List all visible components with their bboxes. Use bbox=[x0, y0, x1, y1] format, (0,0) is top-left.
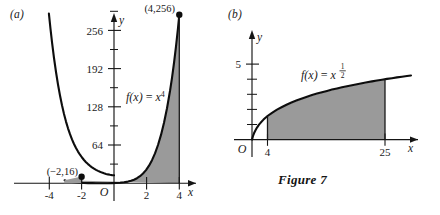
point-marker-4-256 bbox=[176, 12, 182, 18]
function-label-b-exponent: 1 2 bbox=[340, 62, 346, 80]
x-tick-label-4: 4 bbox=[177, 189, 183, 201]
y-tick-label-256: 256 bbox=[87, 25, 104, 37]
figure-container: (a) bbox=[0, 0, 440, 215]
x-axis-name-a: x bbox=[187, 186, 194, 198]
origin-label-b: O bbox=[238, 142, 247, 156]
curve-a-left bbox=[49, 14, 114, 176]
graph-b-svg: 5 4 25 O x y f(x)=x 1 2 bbox=[220, 0, 440, 215]
x-tick-label-neg2: -2 bbox=[77, 189, 86, 201]
function-label-b-base: x bbox=[329, 68, 336, 82]
x-tick-label-4: 4 bbox=[265, 146, 271, 158]
point-label-neg2-16: (−2,16) bbox=[47, 166, 79, 178]
y-axis-arrow-a bbox=[111, 13, 117, 22]
y-tick-label-128: 128 bbox=[87, 101, 104, 113]
x-tick-label-25: 25 bbox=[380, 146, 392, 158]
function-label-a-equals: = bbox=[146, 90, 153, 104]
function-label-b: f(x)=x bbox=[301, 68, 336, 82]
graph-a-svg: 256 192 128 64 -4 -2 2 4 O x y bbox=[0, 0, 220, 215]
origin-label-a: O bbox=[100, 185, 109, 199]
panel-a: (a) bbox=[0, 0, 220, 215]
y-tick-label-64: 64 bbox=[92, 139, 104, 151]
shaded-region-b bbox=[268, 80, 386, 140]
x-axis-name-b: x bbox=[407, 142, 414, 154]
point-label-4-256: (4,256) bbox=[144, 3, 175, 15]
exponent-denominator: 2 bbox=[341, 71, 345, 80]
x-tick-label-2: 2 bbox=[144, 189, 150, 201]
figure-caption: Figure 7 bbox=[278, 172, 327, 188]
panel-b: (b) 5 bbox=[220, 0, 440, 215]
y-axis-name-b: y bbox=[256, 31, 263, 44]
y-axis-arrow-b bbox=[249, 30, 255, 39]
function-label-a-exponent: 4 bbox=[161, 90, 165, 99]
function-label-b-equals: = bbox=[321, 68, 328, 82]
function-label-b-fx: f(x) bbox=[301, 68, 318, 82]
function-label-a: f(x)=x4 bbox=[126, 90, 165, 105]
y-tick-label-192: 192 bbox=[87, 63, 104, 75]
y-axis-name-a: y bbox=[118, 14, 125, 27]
point-marker-neg2-16 bbox=[78, 174, 84, 180]
y-tick-label-5: 5 bbox=[236, 58, 242, 70]
function-label-a-fx: f(x) bbox=[126, 90, 143, 104]
x-tick-label-neg4: -4 bbox=[45, 189, 55, 201]
exponent-numerator: 1 bbox=[341, 62, 345, 71]
